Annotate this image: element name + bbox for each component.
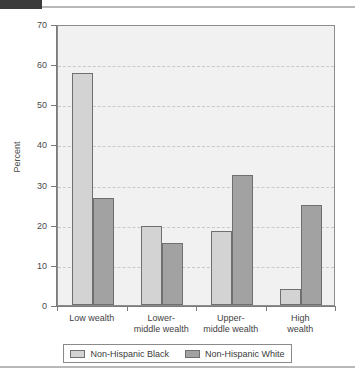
y-axis-tick [51,65,57,66]
y-axis-tick [51,186,57,187]
y-axis-tick [51,25,57,26]
y-axis-title: Percent [12,127,22,187]
bar [211,231,232,305]
bar [280,289,301,305]
bar [301,205,322,305]
y-axis-tick [51,105,57,106]
legend-swatch-icon [185,350,200,358]
y-axis-tick-label: 50 [7,101,47,110]
y-axis-tick-label: 0 [7,302,47,311]
legend-label: Non-Hispanic White [205,349,285,359]
y-axis-line [56,25,57,306]
bar [72,73,93,305]
x-axis-tick [335,306,336,311]
x-axis-tick [266,306,267,311]
x-axis-tick [57,306,58,311]
legend-label: Non-Hispanic Black [90,349,169,359]
top-corner-tab [0,0,42,9]
x-axis-tick [196,306,197,311]
legend-swatch-icon [70,350,85,358]
bottom-divider-rule [0,366,355,368]
y-axis-tick-label: 70 [7,21,47,30]
legend-item[interactable]: Non-Hispanic White [185,349,285,359]
y-axis-tick-label: 20 [7,222,47,231]
plot-area [57,25,335,306]
y-axis-tick [51,266,57,267]
y-axis-tick [51,145,57,146]
top-divider-rule [0,6,355,8]
legend-item[interactable]: Non-Hispanic Black [70,349,169,359]
y-axis-tick-label: 60 [7,61,47,70]
bar [162,243,183,305]
bar-series-container [58,26,334,305]
chart-legend: Non-Hispanic BlackNon-Hispanic White [63,344,292,363]
y-axis-tick [51,226,57,227]
x-axis-tick [127,306,128,311]
x-axis-tick-label-line: High [255,313,345,324]
bar [232,175,253,305]
bar [93,198,114,305]
y-axis-tick-label: 10 [7,262,47,271]
x-axis-tick-label-line: wealth [255,324,345,335]
bar-chart-figure: 706050403020100 Percent Low wealthLower-… [0,10,355,362]
x-axis-tick-label: Highwealth [255,313,345,335]
bar [141,226,162,305]
